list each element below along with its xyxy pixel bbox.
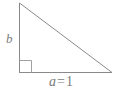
base-leg-variable: a bbox=[49, 74, 56, 89]
base-leg-value: 1 bbox=[66, 74, 73, 89]
right-angle-marker-icon bbox=[20, 61, 32, 73]
right-triangle-figure: b a=1 bbox=[0, 0, 120, 97]
base-leg-label: a=1 bbox=[49, 75, 73, 89]
hypotenuse-line bbox=[20, 3, 113, 73]
vertical-leg-label: b bbox=[6, 32, 13, 45]
base-leg-operator: = bbox=[56, 74, 66, 89]
